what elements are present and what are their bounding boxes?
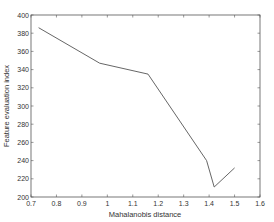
y-tick-label: 380: [17, 30, 29, 37]
y-tick-label: 200: [17, 194, 29, 201]
y-tick-label: 360: [17, 48, 29, 55]
y-tick-label: 400: [17, 12, 29, 19]
x-tick-label: 0.9: [77, 200, 87, 207]
y-tick-label: 320: [17, 84, 29, 91]
x-tick-label: 1: [105, 200, 109, 207]
y-tick-label: 240: [17, 157, 29, 164]
axes-frame: [31, 15, 260, 197]
x-tick-label: 1.6: [255, 200, 265, 207]
x-axis-label: Mahalanobis distance: [109, 210, 182, 219]
chart: 0.70.80.911.11.21.31.41.51.6200220240260…: [0, 0, 274, 222]
x-tick-label: 1.5: [230, 200, 240, 207]
y-tick-label: 260: [17, 139, 29, 146]
x-tick-label: 1.3: [179, 200, 189, 207]
y-axis-label: Feature evaluation index: [2, 65, 11, 147]
y-tick-label: 340: [17, 66, 29, 73]
y-tick-label: 280: [17, 121, 29, 128]
plot-area: 0.70.80.911.11.21.31.41.51.6200220240260…: [17, 12, 265, 208]
y-tick-label: 300: [17, 103, 29, 110]
series-line: [39, 28, 235, 187]
x-tick-label: 0.8: [52, 200, 62, 207]
x-tick-label: 0.7: [26, 200, 36, 207]
x-tick-label: 1.1: [128, 200, 138, 207]
x-tick-label: 1.4: [204, 200, 214, 207]
x-tick-label: 1.2: [153, 200, 163, 207]
y-tick-label: 220: [17, 175, 29, 182]
